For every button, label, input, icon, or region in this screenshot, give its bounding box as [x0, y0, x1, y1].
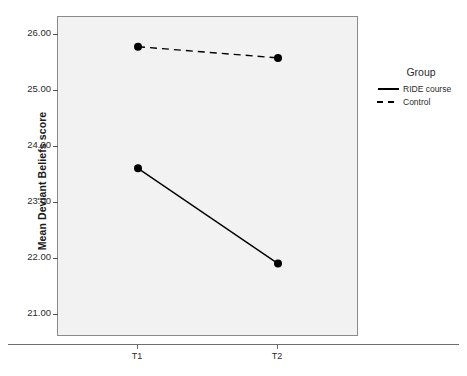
plot-area: 26.00 25.00 24.00 23.00 22.00 21.00	[57, 16, 358, 336]
data-point[interactable]	[274, 260, 282, 268]
legend-item-label: RIDE course	[401, 84, 451, 94]
legend-title: Group	[382, 66, 460, 78]
y-tick-label: 26.00	[27, 27, 51, 38]
x-tick-label-t1: T1	[132, 351, 143, 361]
line-chart: Mean Deviant Beliefs score 26.00 25.00 2…	[0, 0, 467, 376]
data-point[interactable]	[134, 164, 142, 172]
legend-item-label: Control	[401, 97, 430, 107]
x-tick-label-t2: T2	[272, 351, 283, 361]
y-tick-label: 24.00	[27, 139, 51, 150]
data-point[interactable]	[134, 43, 142, 51]
x-axis-line	[8, 344, 459, 345]
legend-item-control[interactable]: Control	[376, 96, 467, 108]
y-tick-label: 23.00	[27, 195, 51, 206]
x-tick-mark-t2	[277, 344, 278, 349]
dashed-line-icon	[376, 97, 401, 107]
y-tick-label: 21.00	[27, 307, 51, 318]
data-point[interactable]	[274, 54, 282, 62]
legend: Group RIDE course Control	[376, 66, 467, 109]
data-series-layer	[58, 17, 359, 337]
x-tick-mark-t1	[137, 344, 138, 349]
series-line-control	[138, 47, 278, 58]
y-tick-label: 25.00	[27, 83, 51, 94]
legend-item-ride-course[interactable]: RIDE course	[376, 83, 467, 95]
solid-line-icon	[376, 84, 401, 94]
y-tick-label: 22.00	[27, 251, 51, 262]
series-line-ride-course	[138, 168, 278, 263]
